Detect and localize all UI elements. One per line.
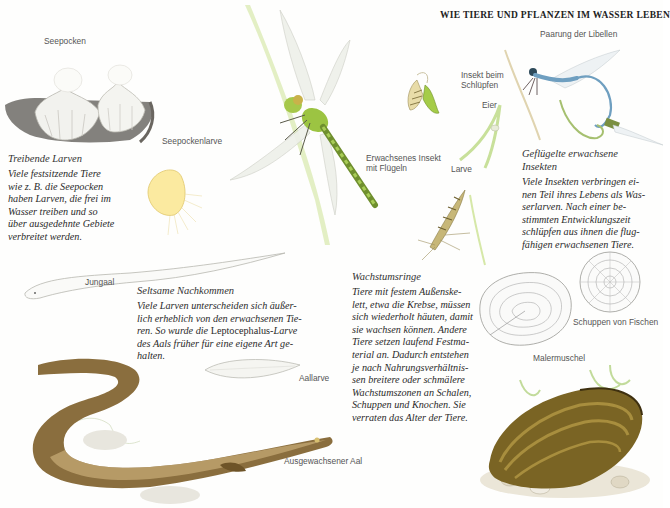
block-body: Viele Larven unterscheiden sich äußer- l… [137, 300, 317, 363]
block-title: Wachstumsringe [352, 270, 477, 283]
body-fragment: -Larve [270, 325, 297, 336]
damselflies-illustration [505, 40, 663, 150]
body-line: serlarven. Nach einer be- [522, 201, 663, 214]
barnacles-illustration [0, 40, 170, 145]
page-header: WIE TIERE UND PFLANZEN IM WASSER LEBEN [440, 10, 670, 20]
label-paarung: Paarung der Libellen [540, 29, 617, 40]
body-line: stimmten Entwicklungszeit [522, 214, 663, 227]
label-eier: Eier [482, 100, 497, 111]
body-line: verraten das Alter der Tiere. [352, 412, 477, 425]
label-schuppen: Schuppen von Fischen [573, 317, 658, 328]
text-block-seltsame-nachkommen: Seltsame Nachkommen Viele Larven untersc… [137, 284, 317, 363]
adult-eel-illustration [10, 345, 340, 505]
dragonfly-larva-illustration [410, 185, 490, 270]
body-line: des Aals früher für eine eigene Art ge- [137, 338, 317, 351]
dragonfly-illustration [225, 5, 395, 220]
body-line: nen Teil ihres Lebens als Was- [522, 189, 663, 202]
block-title: Geflügelte erwachsene Insekten [522, 147, 663, 173]
body-line: Viele Larven unterscheiden sich äußer- [137, 300, 317, 313]
body-line: fähigen erwachsenen Tiere. [522, 239, 663, 252]
label-erwachsenes-insekt-2: mit Flügeln [366, 163, 407, 174]
block-body: Viele Insekten verbringen ei- nen Teil i… [522, 176, 663, 252]
body-line: Wachstumszonen an Schalen, [352, 387, 477, 400]
block-title: Treibende Larven [8, 152, 168, 165]
label-ausgewachsener-aal: Ausgewachsener Aal [284, 456, 362, 467]
mussel-rings-illustration [470, 265, 580, 350]
fish-scale-illustration [575, 247, 645, 317]
body-line: sen breitere oder schmälere [352, 374, 477, 387]
body-line: Viele Insekten verbringen ei- [522, 176, 663, 189]
body-line: halten. [137, 350, 317, 363]
body-line: Schuppen und Knochen. Sie [352, 399, 477, 412]
text-block-wachstumsringe: Wachstumsringe Tiere mit festem Außenske… [352, 270, 477, 425]
body-line: Wasser treiben und so [8, 206, 168, 219]
label-aallarve: Aallarve [299, 373, 329, 384]
body-line: sich wiederholt häuten, damit [352, 311, 477, 324]
body-line: Tiere mit festem Außenske- [352, 286, 477, 299]
block-title: Seltsame Nachkommen [137, 284, 317, 297]
body-line: wie z. B. die Seepocken [8, 181, 168, 194]
block-body: Viele festsitzende Tiere wie z. B. die S… [8, 168, 168, 244]
body-line: terial an. Dadurch entstehen [352, 349, 477, 362]
label-larve: Larve [451, 164, 472, 175]
body-line: Viele festsitzende Tiere [8, 168, 168, 181]
body-line: Tiere setzen laufend Festma- [352, 336, 477, 349]
body-line: lich erheblich von den erwachsenen Tie- [137, 313, 317, 326]
emerging-insect-illustration [395, 55, 455, 125]
body-line: sie wachsen können. Andere [352, 324, 477, 337]
body-line: über ausgedehnte Gebiete [8, 218, 168, 231]
body-line: ren. So wurde die Leptocephalus-Larve [137, 325, 317, 338]
label-seepocken: Seepocken [44, 36, 86, 47]
label-insekt-schluepfen-2: Schlüpfen [461, 80, 498, 91]
body-line: schlüpfen aus ihnen die flug- [522, 226, 663, 239]
body-line: je nach Nahrungsverhältnis- [352, 362, 477, 375]
body-line: verbreitet werden. [8, 231, 168, 244]
title-line: Geflügelte erwachsene [522, 147, 663, 160]
painters-mussel-illustration [470, 360, 660, 508]
block-body: Tiere mit festem Außenske- lett, etwa di… [352, 286, 477, 425]
body-fragment: ren. So wurde die [137, 325, 211, 336]
body-line: lett, etwa die Krebse, müssen [352, 299, 477, 312]
genus-name: Leptocephalus [211, 325, 270, 336]
body-line: haben Larven, die frei im [8, 193, 168, 206]
label-jungaal: Jungaal [85, 277, 114, 288]
text-block-gefluegelte-insekten: Geflügelte erwachsene Insekten Viele Ins… [522, 147, 663, 252]
label-seepockenlarve: Seepockenlarve [162, 136, 222, 147]
text-block-treibende-larven: Treibende Larven Viele festsitzende Tier… [8, 152, 168, 244]
title-line: Insekten [522, 160, 663, 173]
label-malermuschel: Malermuschel [533, 353, 585, 364]
